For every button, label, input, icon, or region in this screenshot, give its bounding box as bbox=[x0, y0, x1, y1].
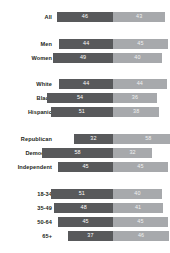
bar-segment-series-2: 38 bbox=[113, 107, 159, 117]
chart-row: 18-345140 bbox=[0, 188, 170, 200]
category-label: All bbox=[0, 11, 52, 23]
bar-segment-series-2: 36 bbox=[113, 93, 157, 103]
stacked-bar: 4940 bbox=[53, 53, 162, 63]
bar-value-series-2: 43 bbox=[136, 14, 142, 19]
bar-segment-series-2: 45 bbox=[113, 39, 168, 49]
bar-segment-series-2: 44 bbox=[113, 79, 167, 89]
bar-segment-series-2: 40 bbox=[113, 189, 162, 199]
bar-value-series-2: 45 bbox=[137, 41, 143, 46]
chart-row: White4444 bbox=[0, 78, 170, 90]
bar-value-series-1: 32 bbox=[90, 136, 96, 141]
bar-value-series-1: 37 bbox=[87, 233, 93, 238]
category-label: Hispanic bbox=[0, 106, 52, 118]
stacked-bar: 4545 bbox=[58, 162, 168, 172]
bar-value-series-1: 46 bbox=[82, 14, 88, 19]
bar-segment-series-2: 41 bbox=[113, 203, 163, 213]
chart-row: Independent4545 bbox=[0, 161, 170, 173]
bar-value-series-1: 45 bbox=[82, 164, 88, 169]
chart-row: Democrat5832 bbox=[0, 147, 170, 159]
stacked-bar: 4545 bbox=[58, 217, 168, 227]
bar-segment-series-1: 58 bbox=[42, 148, 113, 158]
bar-value-series-2: 40 bbox=[134, 191, 140, 196]
bar-value-series-2: 36 bbox=[132, 95, 138, 100]
stacked-bar: 4643 bbox=[57, 12, 166, 22]
category-label: Men bbox=[0, 38, 52, 50]
bar-segment-series-1: 54 bbox=[47, 93, 113, 103]
bar-value-series-2: 58 bbox=[145, 136, 151, 141]
bar-segment-series-2: 43 bbox=[113, 12, 165, 22]
stacked-bar: 4841 bbox=[54, 203, 163, 213]
stacked-bar: 5138 bbox=[51, 107, 160, 117]
stacked-bar: 4444 bbox=[59, 79, 166, 89]
category-label: Independent bbox=[0, 161, 52, 173]
bar-value-series-1: 54 bbox=[77, 95, 83, 100]
bar-segment-series-1: 44 bbox=[59, 39, 113, 49]
category-label: Republican bbox=[0, 133, 52, 145]
category-label: Women bbox=[0, 52, 52, 64]
chart-row: 35-494841 bbox=[0, 202, 170, 214]
bar-segment-series-2: 46 bbox=[113, 231, 169, 241]
bar-segment-series-1: 45 bbox=[58, 162, 113, 172]
bar-value-series-2: 45 bbox=[137, 164, 143, 169]
category-label: 35-49 bbox=[0, 202, 52, 214]
bar-value-series-1: 44 bbox=[83, 81, 89, 86]
stacked-bar: 3258 bbox=[74, 134, 170, 144]
stacked-bar: 5436 bbox=[47, 93, 157, 103]
bar-value-series-2: 44 bbox=[137, 81, 143, 86]
bar-segment-series-1: 44 bbox=[59, 79, 113, 89]
bar-segment-series-1: 37 bbox=[68, 231, 113, 241]
bar-value-series-1: 49 bbox=[80, 55, 86, 60]
bar-segment-series-1: 46 bbox=[57, 12, 113, 22]
bar-value-series-2: 40 bbox=[134, 55, 140, 60]
chart-row: Republican3258 bbox=[0, 133, 170, 145]
category-label: 18-34 bbox=[0, 188, 52, 200]
bar-value-series-2: 46 bbox=[138, 233, 144, 238]
category-label: 50-64 bbox=[0, 216, 52, 228]
chart-row: Hispanic5138 bbox=[0, 106, 170, 118]
bar-value-series-1: 45 bbox=[82, 219, 88, 224]
chart-row: All4643 bbox=[0, 11, 170, 23]
chart-row: 65+3746 bbox=[0, 230, 170, 242]
bar-value-series-2: 41 bbox=[135, 205, 141, 210]
stacked-bar: 5832 bbox=[42, 148, 152, 158]
bar-value-series-1: 48 bbox=[81, 205, 87, 210]
bar-value-series-2: 32 bbox=[129, 150, 135, 155]
stacked-bar: 5140 bbox=[51, 189, 162, 199]
bar-segment-series-1: 49 bbox=[53, 53, 113, 63]
category-label: White bbox=[0, 78, 52, 90]
chart-row: Women4940 bbox=[0, 52, 170, 64]
bar-segment-series-1: 51 bbox=[51, 189, 113, 199]
category-label: Black bbox=[0, 92, 52, 104]
chart-row: Black5436 bbox=[0, 92, 170, 104]
bar-value-series-2: 45 bbox=[137, 219, 143, 224]
chart-row: Men4445 bbox=[0, 38, 170, 50]
bar-segment-series-2: 45 bbox=[113, 217, 168, 227]
bar-value-series-1: 58 bbox=[75, 150, 81, 155]
bar-value-series-2: 38 bbox=[133, 109, 139, 114]
bar-value-series-1: 51 bbox=[79, 109, 85, 114]
bar-segment-series-2: 32 bbox=[113, 148, 152, 158]
stacked-bar: 3746 bbox=[68, 231, 169, 241]
chart-row: 50-644545 bbox=[0, 216, 170, 228]
stacked-bar: 4445 bbox=[59, 39, 168, 49]
bar-segment-series-2: 45 bbox=[113, 162, 168, 172]
stacked-bar-chart: All4643Men4445Women4940White4444Black543… bbox=[0, 0, 170, 253]
bar-segment-series-1: 48 bbox=[54, 203, 113, 213]
bar-value-series-1: 44 bbox=[83, 41, 89, 46]
category-label: 65+ bbox=[0, 230, 52, 242]
bar-value-series-1: 51 bbox=[79, 191, 85, 196]
bar-segment-series-1: 32 bbox=[74, 134, 113, 144]
bar-segment-series-1: 51 bbox=[51, 107, 113, 117]
bar-segment-series-1: 45 bbox=[58, 217, 113, 227]
bar-segment-series-2: 58 bbox=[113, 134, 170, 144]
bar-segment-series-2: 40 bbox=[113, 53, 162, 63]
